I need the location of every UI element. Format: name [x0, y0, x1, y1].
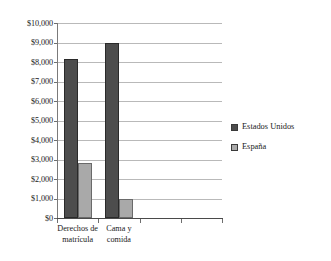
legend-item-label: España [242, 142, 266, 152]
y-tick-label: $0 [1, 214, 53, 223]
y-tick-label: $7,000 [1, 77, 53, 86]
gridline [57, 23, 222, 24]
y-axis: $10,000$9,000$8,000$7,000$6,000$5,000$4,… [0, 0, 53, 261]
gridline [57, 160, 222, 161]
bar-espana-1 [119, 199, 133, 218]
x-tick-mark [98, 219, 99, 223]
gridline [57, 62, 222, 63]
bar-chart: $10,000$9,000$8,000$7,000$6,000$5,000$4,… [0, 0, 331, 261]
legend-swatch-estados-unidos [231, 124, 238, 131]
gridline [57, 43, 222, 44]
y-axis-line [57, 23, 58, 219]
y-tick-label: $10,000 [1, 19, 53, 28]
bar-estados-unidos-0 [64, 59, 78, 218]
y-tick-label: $5,000 [1, 116, 53, 125]
x-axis: Derechos dematrículaCama ycomida [57, 223, 232, 261]
bar-espana-0 [78, 163, 92, 218]
gridline [57, 101, 222, 102]
x-category-label-line: comida [84, 234, 154, 245]
legend-item-estados-unidos[interactable]: Estados Unidos [231, 117, 329, 137]
y-tick-label: $1,000 [1, 194, 53, 203]
y-tick-label: $6,000 [1, 97, 53, 106]
bar-estados-unidos-1 [105, 43, 119, 218]
plot-area [57, 23, 222, 218]
gridline [57, 121, 222, 122]
x-category-label-line: Cama y [84, 223, 154, 234]
x-category-label: Cama ycomida [84, 223, 154, 245]
gridline [57, 140, 222, 141]
legend-swatch-espana [231, 144, 238, 151]
x-tick-mark [222, 219, 223, 223]
gridline [57, 82, 222, 83]
chart-legend: Estados UnidosEspaña [231, 117, 329, 157]
y-tick-label: $8,000 [1, 58, 53, 67]
y-tick-label: $2,000 [1, 175, 53, 184]
x-tick-mark [181, 219, 182, 223]
legend-item-espana[interactable]: España [231, 137, 329, 157]
y-tick-label: $3,000 [1, 155, 53, 164]
legend-item-label: Estados Unidos [242, 122, 294, 132]
y-tick-label: $4,000 [1, 136, 53, 145]
y-tick-label: $9,000 [1, 38, 53, 47]
x-tick-mark [140, 219, 141, 223]
x-tick-mark [57, 219, 58, 223]
